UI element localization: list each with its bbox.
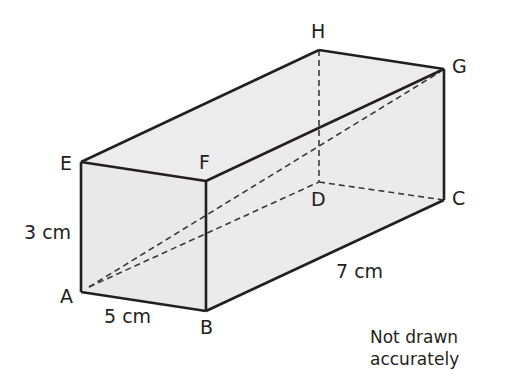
vertex-label-b: B xyxy=(200,318,213,337)
vertex-label-h: H xyxy=(311,22,325,41)
dimension-length: 7 cm xyxy=(336,262,383,281)
not-drawn-accurately-note: Not drawn accurately xyxy=(370,326,459,370)
vertex-label-c: C xyxy=(452,189,465,208)
front-face xyxy=(81,162,206,311)
dimension-width: 5 cm xyxy=(104,307,151,326)
vertex-label-a: A xyxy=(60,287,73,306)
vertex-label-e: E xyxy=(60,154,72,173)
vertex-label-d: D xyxy=(311,190,326,209)
note-line-2: accurately xyxy=(370,348,459,370)
note-line-1: Not drawn xyxy=(370,326,459,348)
dimension-height: 3 cm xyxy=(24,223,71,242)
vertex-label-f: F xyxy=(199,153,210,172)
vertex-label-g: G xyxy=(452,57,467,76)
